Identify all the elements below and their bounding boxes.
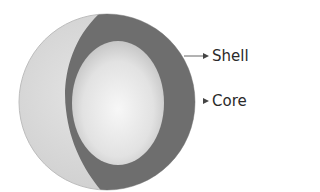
core-region <box>72 41 164 165</box>
shell-arrow <box>184 53 209 59</box>
shell-label: Shell <box>212 49 249 64</box>
core-arrow <box>203 98 209 104</box>
core-label: Core <box>212 94 247 109</box>
